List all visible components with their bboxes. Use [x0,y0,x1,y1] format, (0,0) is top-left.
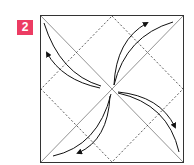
origami-diagram [0,0,194,165]
